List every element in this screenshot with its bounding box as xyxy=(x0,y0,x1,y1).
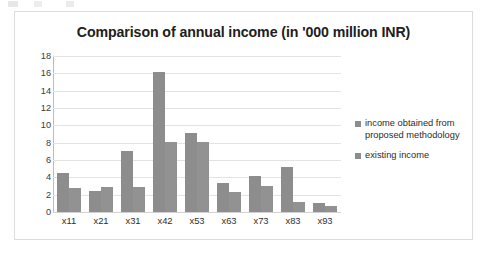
gridline xyxy=(53,212,341,213)
legend-swatch-icon-existing xyxy=(355,153,361,159)
legend-label-proposed-line1: income obtained from xyxy=(365,118,454,128)
bar xyxy=(229,192,241,212)
bar xyxy=(57,173,69,212)
y-axis-tick-label: 4 xyxy=(46,172,51,182)
bar xyxy=(121,151,133,212)
x-axis-tick-label: x83 xyxy=(285,215,300,226)
bar-group xyxy=(185,56,209,212)
bar xyxy=(281,167,293,212)
legend-swatch-icon-proposed xyxy=(355,121,361,127)
y-axis-tick-label: 2 xyxy=(46,190,51,200)
y-axis-tick-label: 16 xyxy=(41,68,51,78)
y-axis-tick-label: 6 xyxy=(46,155,51,165)
bar xyxy=(185,133,197,212)
bar-group xyxy=(249,56,273,212)
plot-area xyxy=(53,56,341,212)
x-axis-tick-label: x73 xyxy=(253,215,268,226)
x-axis-tick-label: x42 xyxy=(157,215,172,226)
bar xyxy=(153,72,165,212)
y-axis-tick-label: 0 xyxy=(46,207,51,217)
bar xyxy=(249,176,261,212)
bar xyxy=(101,187,113,212)
bar-group xyxy=(281,56,305,212)
bar-group xyxy=(313,56,337,212)
y-axis-tick-label: 18 xyxy=(41,51,51,61)
bar xyxy=(217,183,229,212)
bar xyxy=(133,187,145,212)
bar-group xyxy=(57,56,81,212)
chart-title: Comparison of annual income (in '000 mil… xyxy=(15,24,472,40)
scan-artifact xyxy=(8,1,128,7)
y-axis-tick-label: 8 xyxy=(46,138,51,148)
bar xyxy=(313,203,325,212)
bar xyxy=(197,142,209,212)
legend-item-proposed: income obtained from proposed methodolog… xyxy=(355,118,473,141)
x-axis-tick-label: x21 xyxy=(93,215,108,226)
legend-label-existing: existing income xyxy=(365,150,429,162)
bar xyxy=(69,188,81,212)
bar-group xyxy=(153,56,177,212)
x-axis-tick-labels: x11x21x31x42x53x63x73x83x93 xyxy=(53,215,341,231)
bars-layer xyxy=(53,56,341,212)
legend-item-existing: existing income xyxy=(355,150,473,162)
legend-label-proposed-line2: proposed methodology xyxy=(365,130,460,140)
y-axis-tick-label: 14 xyxy=(41,86,51,96)
y-axis-tick-label: 12 xyxy=(41,103,51,113)
bar xyxy=(261,186,273,212)
x-axis-tick-label: x11 xyxy=(62,215,76,226)
chart-container: Comparison of annual income (in '000 mil… xyxy=(14,11,473,240)
chart-legend: income obtained from proposed methodolog… xyxy=(355,118,473,171)
legend-label-proposed: income obtained from proposed methodolog… xyxy=(365,118,460,141)
bar xyxy=(165,142,177,212)
bar xyxy=(325,206,337,212)
x-axis-tick-label: x53 xyxy=(189,215,204,226)
y-axis-tick-label: 10 xyxy=(41,120,51,130)
bar-group xyxy=(217,56,241,212)
x-axis-tick-label: x31 xyxy=(125,215,140,226)
x-axis-tick-label: x63 xyxy=(221,215,236,226)
y-axis-tick-labels: 024681012141618 xyxy=(29,56,51,212)
bar-group xyxy=(121,56,145,212)
bar-group xyxy=(89,56,113,212)
bar xyxy=(293,202,305,212)
bar xyxy=(89,191,101,212)
x-axis-tick-label: x93 xyxy=(317,215,332,226)
